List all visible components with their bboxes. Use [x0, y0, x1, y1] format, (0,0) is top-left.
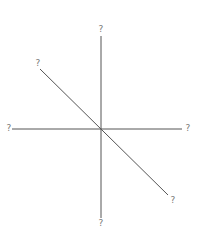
axis-diagram: [0, 0, 201, 242]
label-right: ?: [186, 124, 191, 133]
label-bottom: ?: [99, 219, 104, 228]
label-upper-left: ?: [36, 59, 41, 68]
label-lower-right: ?: [171, 196, 176, 205]
label-left: ?: [7, 124, 12, 133]
label-top: ?: [99, 25, 104, 34]
diagonal-line: [40, 69, 168, 195]
